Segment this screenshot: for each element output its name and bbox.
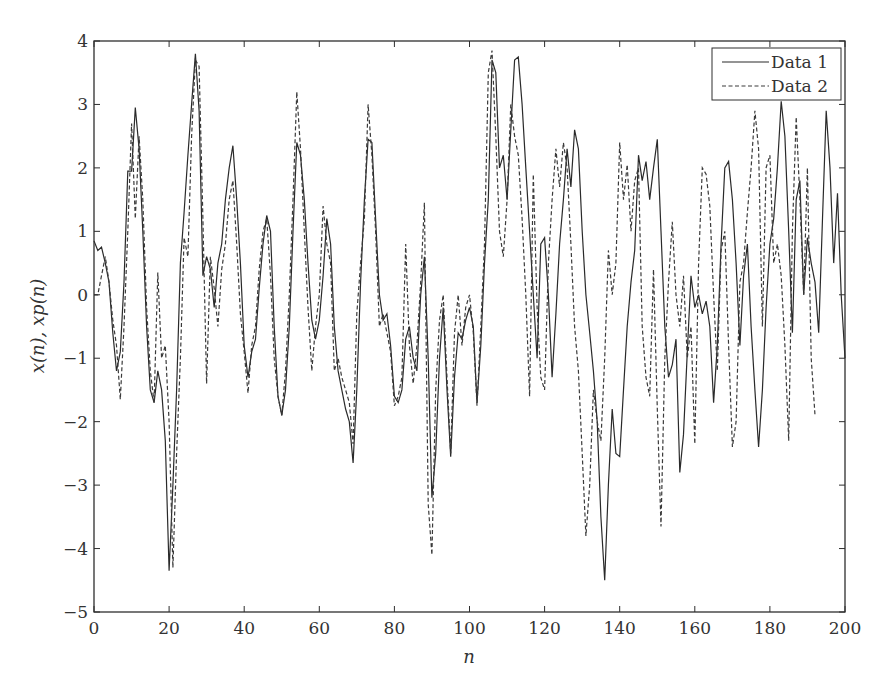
plot-area: 020406080100120140160180200 −5−4−3−2−101… [63,31,861,638]
series-layer [94,51,845,581]
x-tick-label: 80 [384,618,406,638]
y-tick-label: −4 [63,539,88,559]
x-tick-label: 100 [453,618,485,638]
x-tick-label: 140 [603,618,635,638]
line-chart: 020406080100120140160180200 −5−4−3−2−101… [0,0,889,690]
x-tick-label: 180 [754,618,786,638]
x-axis-ticks: 020406080100120140160180200 [89,41,862,638]
y-tick-label: 1 [77,221,88,241]
y-tick-label: 0 [77,285,88,305]
x-tick-label: 0 [89,618,100,638]
x-axis-label: n [463,646,475,667]
y-tick-label: −5 [63,602,88,622]
x-tick-label: 20 [158,618,180,638]
y-tick-label: −2 [63,412,88,432]
y-axis-label: x(n), xp(n) [27,279,48,374]
y-axis-ticks: −5−4−3−2−101234 [63,31,845,622]
legend-label-data-1: Data 1 [771,52,828,72]
axes-frame [94,41,845,612]
y-tick-label: 2 [77,158,88,178]
x-tick-label: 40 [233,618,255,638]
y-tick-label: 3 [77,94,88,114]
y-tick-label: 4 [77,31,88,51]
series-data-1-line [94,54,845,581]
legend-label-data-2: Data 2 [771,76,828,96]
x-tick-label: 160 [679,618,711,638]
x-tick-label: 120 [528,618,560,638]
x-tick-label: 60 [308,618,330,638]
y-tick-label: −3 [63,475,88,495]
legend: Data 1 Data 2 [712,48,841,100]
x-tick-label: 200 [829,618,861,638]
y-tick-label: −1 [63,348,88,368]
